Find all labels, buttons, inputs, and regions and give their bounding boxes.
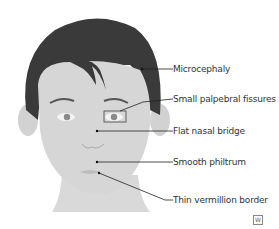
label-microcephaly: Microcephaly [173,64,230,74]
label-smooth-philtrum: Smooth philtrum [173,157,246,167]
publisher-logo-icon: W [253,215,263,225]
label-flat-nasal-bridge: Flat nasal bridge [173,126,245,136]
label-thin-vermillion-border: Thin vermillion border [173,195,268,205]
figure-canvas: Microcephaly Small palpebral fissures Fl… [0,0,279,229]
label-small-palpebral-fissures: Small palpebral fissures [173,94,276,104]
